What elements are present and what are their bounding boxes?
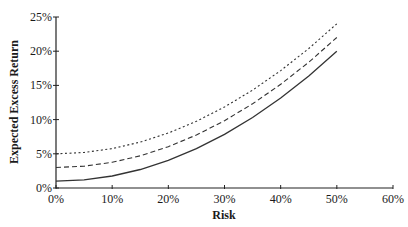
y-tick-label: 10% [30,113,52,127]
series-group [56,24,337,181]
x-tick-label: 50% [326,192,348,206]
y-tick-label: 15% [30,78,52,92]
y-axis-title: Expected Excess Return [7,40,21,164]
x-tick-label: 10% [101,192,123,206]
x-tick-label: 60% [382,192,404,206]
indifference-curves-chart: 0%10%20%30%40%50%60%0%5%10%15%20%25% Ris… [0,0,408,227]
y-tick-label: 20% [30,44,52,58]
y-tick-label: 5% [36,147,52,161]
y-tick-label: 25% [30,10,52,24]
x-axis-title: Risk [212,208,236,222]
axes: 0%10%20%30%40%50%60%0%5%10%15%20%25% [30,10,404,206]
x-tick-label: 20% [157,192,179,206]
x-tick-label: 30% [214,192,236,206]
x-tick-label: 40% [270,192,292,206]
curve-dotted [56,24,337,154]
y-tick-label: 0% [36,181,52,195]
curve-solid [56,51,337,181]
